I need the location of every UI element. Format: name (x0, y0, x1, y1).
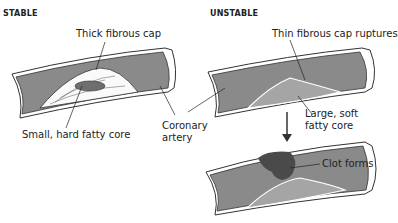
stable-heading: STABLE (3, 9, 38, 18)
stable-artery-illustration (12, 42, 176, 128)
large-soft-fatty-core-label-line1: Large, soft (305, 108, 358, 120)
thick-fibrous-cap-label: Thick fibrous cap (76, 28, 161, 40)
clot-forms-label: Clot forms (322, 158, 374, 170)
clot-artery-illustration (206, 142, 376, 215)
coronary-artery-label-line1: Coronary (162, 120, 208, 132)
coronary-artery-label-line2: artery (162, 132, 192, 144)
small-hard-fatty-core-label: Small, hard fatty core (22, 129, 130, 141)
unstable-heading: UNSTABLE (210, 9, 258, 18)
thin-fibrous-cap-ruptures-label: Thin fibrous cap ruptures (272, 28, 398, 40)
large-soft-fatty-core-label-line2: fatty core (305, 120, 353, 132)
